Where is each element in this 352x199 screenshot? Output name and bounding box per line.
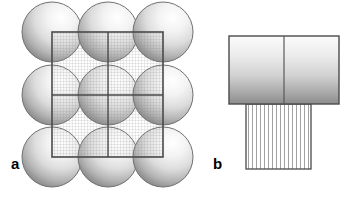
panel-label-a: a [11, 156, 19, 171]
panel-b-group [229, 36, 339, 169]
panel-a-group [22, 2, 193, 187]
panel-label-b: b [213, 156, 222, 171]
figure-diagram [0, 0, 352, 199]
hatched-rectangle [246, 104, 311, 169]
gradient-rectangle [229, 36, 339, 104]
figure-container: a b [0, 0, 352, 199]
